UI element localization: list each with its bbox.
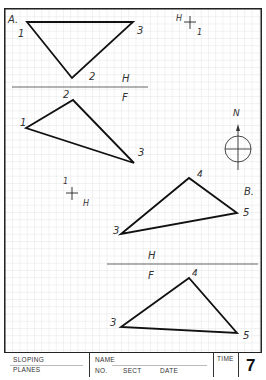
- title-block: SLOPING PLANES NAME NO. SECT DATE TIME 7: [4, 352, 262, 377]
- problem-a-label: A.: [8, 15, 18, 25]
- sheet-number-cell: 7: [239, 353, 262, 377]
- date-field-label[interactable]: DATE: [160, 367, 178, 374]
- marker-mid-point-label: 1: [63, 177, 68, 187]
- point-label-a-top-3: 3: [137, 26, 143, 36]
- fold-label-b-f: F: [148, 271, 154, 281]
- title-line-2: PLANES: [13, 366, 40, 373]
- time-field-label[interactable]: TIME: [217, 355, 234, 362]
- title-cell: SLOPING PLANES: [4, 353, 90, 377]
- sheet-number: 7: [246, 356, 255, 376]
- drawing-canvas: [0, 0, 266, 380]
- marker-mid-h-label: H: [83, 199, 89, 209]
- point-label-b-top-4: 4: [197, 169, 203, 179]
- fold-label-a-h: H: [122, 74, 130, 84]
- section-field-label[interactable]: SECT: [123, 367, 142, 374]
- point-label-b-front-3: 3: [110, 318, 116, 328]
- title-line-1: SLOPING: [13, 356, 44, 363]
- fold-label-a-f: F: [122, 93, 128, 103]
- grid-paper: [5, 9, 261, 352]
- point-label-b-top-5: 5: [243, 208, 249, 218]
- north-label: N: [233, 108, 240, 118]
- time-cell: TIME: [214, 353, 239, 377]
- number-field-label[interactable]: NO.: [95, 367, 107, 374]
- problem-b-label: B.: [244, 187, 254, 197]
- point-label-b-front-4: 4: [192, 268, 198, 278]
- point-label-b-top-3: 3: [113, 226, 119, 236]
- point-label-a-front-1: 1: [20, 118, 26, 128]
- point-label-a-top-1: 1: [18, 29, 24, 39]
- student-info-cell: NAME NO. SECT DATE: [90, 353, 214, 377]
- point-label-a-front-2: 2: [63, 90, 69, 100]
- point-label-b-front-5: 5: [243, 331, 249, 341]
- fold-label-b-h: H: [148, 251, 156, 261]
- name-field-label[interactable]: NAME: [95, 356, 115, 363]
- point-label-a-top-2: 2: [89, 72, 95, 82]
- marker-top-point-label: 1: [197, 28, 202, 38]
- point-label-a-front-3: 3: [138, 148, 144, 158]
- marker-top-h-label: H: [176, 14, 182, 24]
